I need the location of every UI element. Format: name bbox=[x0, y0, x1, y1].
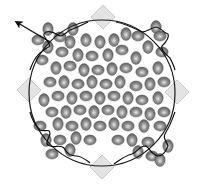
particle bbox=[153, 62, 163, 75]
particle bbox=[120, 63, 132, 73]
particle bbox=[100, 79, 112, 89]
particle bbox=[52, 91, 64, 101]
particle bbox=[66, 121, 78, 131]
particle bbox=[72, 79, 84, 89]
particle bbox=[103, 49, 113, 62]
diamond-top-icon bbox=[91, 5, 115, 29]
particle bbox=[81, 118, 91, 131]
particle bbox=[136, 67, 148, 77]
particle bbox=[59, 76, 69, 89]
particle bbox=[84, 135, 96, 145]
particle bbox=[53, 118, 63, 131]
particle bbox=[107, 63, 117, 76]
particle bbox=[158, 77, 170, 87]
particle bbox=[56, 47, 68, 57]
particle bbox=[143, 41, 153, 54]
particle bbox=[54, 135, 66, 145]
particle bbox=[64, 61, 76, 71]
particle bbox=[79, 64, 89, 77]
particle bbox=[80, 91, 92, 101]
particle bbox=[39, 94, 49, 107]
particle bbox=[121, 28, 131, 41]
particle bbox=[89, 106, 99, 119]
particle bbox=[46, 107, 58, 117]
particle bbox=[95, 92, 105, 105]
particle bbox=[67, 92, 77, 105]
particle bbox=[145, 108, 155, 121]
particle bbox=[130, 107, 142, 117]
particle bbox=[92, 65, 104, 75]
particle bbox=[102, 105, 114, 115]
particle bbox=[136, 95, 148, 105]
diagram-canvas bbox=[0, 0, 204, 188]
particle bbox=[32, 35, 44, 45]
particle-lattice bbox=[32, 21, 173, 167]
particle bbox=[130, 81, 142, 91]
particle bbox=[154, 121, 166, 131]
particle bbox=[109, 118, 119, 131]
particle bbox=[158, 107, 170, 117]
particle bbox=[94, 121, 106, 131]
particle bbox=[108, 91, 120, 101]
particle bbox=[61, 106, 71, 119]
particle bbox=[122, 121, 134, 131]
particle bbox=[44, 77, 56, 87]
particle bbox=[153, 92, 163, 105]
particle bbox=[73, 49, 83, 62]
particle bbox=[112, 135, 124, 145]
lattice-diagram bbox=[0, 0, 204, 188]
particle bbox=[86, 51, 98, 61]
particle bbox=[109, 34, 119, 47]
particle bbox=[71, 132, 81, 145]
particle bbox=[74, 105, 86, 115]
particle bbox=[51, 62, 61, 75]
particle bbox=[95, 36, 105, 49]
particle bbox=[139, 120, 149, 133]
particle bbox=[65, 36, 75, 49]
particle bbox=[87, 76, 97, 89]
particle bbox=[116, 45, 128, 55]
particle bbox=[131, 52, 141, 65]
diamond-bottom-icon bbox=[90, 155, 114, 179]
particle bbox=[117, 106, 127, 119]
particle bbox=[115, 76, 125, 89]
particle bbox=[81, 34, 91, 47]
particle bbox=[145, 78, 155, 91]
particle bbox=[36, 55, 48, 65]
particle bbox=[123, 92, 133, 105]
particle bbox=[127, 134, 137, 147]
